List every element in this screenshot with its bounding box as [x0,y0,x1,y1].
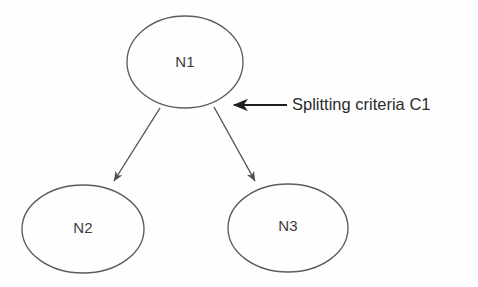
node-n2[interactable]: N2 [22,185,144,273]
diagram-canvas: N1 N2 N3 Splitting criteria C1 [0,0,478,287]
node-n3-label: N3 [278,217,298,234]
edge-n1-to-n3 [214,107,255,181]
node-n2-label: N2 [73,219,93,236]
node-n1[interactable]: N1 [127,16,243,108]
node-n1-label: N1 [175,53,195,70]
decision-tree-diagram: N1 N2 N3 Splitting criteria C1 [0,0,478,287]
splitting-criteria-label: Splitting criteria C1 [292,95,430,113]
node-n3[interactable]: N3 [228,184,348,272]
edge-n1-to-n2 [114,108,160,181]
